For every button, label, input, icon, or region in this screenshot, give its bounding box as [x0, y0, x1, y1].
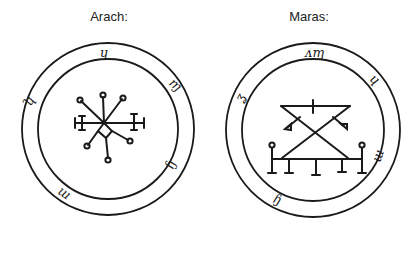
seal-maras: ᴧɱ ɥ ɯ ɧ ʓ	[226, 43, 400, 217]
inner-ring-circle	[38, 59, 178, 199]
ring-glyph-top: ɥ	[100, 45, 108, 60]
seal-arach: ɥ ɱ ɧ ɯ ʮ	[20, 43, 194, 215]
outer-ring-circle	[22, 43, 194, 215]
ring-glyph-left: ʮ	[20, 93, 38, 109]
arach-sigil	[75, 92, 144, 162]
ring-glyph-lower-right: ɯ	[369, 147, 387, 164]
seals-drawing: ɥ ɱ ɧ ɯ ʮ	[0, 0, 419, 256]
ring-glyph-left: ʓ	[232, 90, 249, 104]
maras-sigil	[268, 100, 366, 175]
ring-glyph-bottom-left: ɧ	[271, 191, 284, 208]
ring-glyph-upper-right: ɥ	[367, 71, 383, 88]
ring-glyph-upper-right: ɱ	[166, 75, 185, 94]
ring-glyph-top: ᴧɱ	[304, 45, 325, 60]
